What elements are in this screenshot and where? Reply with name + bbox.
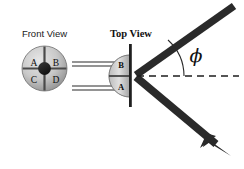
- quadrant-detector-front: A B C D: [22, 46, 67, 91]
- figure-canvas: Front View Top View A B C D: [0, 0, 244, 169]
- front-detector-hub: [38, 62, 51, 75]
- outgoing-beam-arrowhead: [203, 133, 230, 155]
- front-quadrant-label-b: B: [53, 58, 59, 68]
- top-view-label: Top View: [110, 28, 152, 39]
- front-quadrant-label-c: C: [31, 75, 37, 85]
- front-quadrant-label-a: A: [31, 58, 38, 68]
- quadrant-detector-top: B A: [109, 44, 131, 107]
- front-quadrant-label-d: D: [53, 75, 60, 85]
- front-view-label: Front View: [22, 28, 67, 39]
- top-segment-label-b: B: [118, 60, 124, 70]
- top-segment-label-a: A: [118, 82, 125, 92]
- incoming-beam: [136, 6, 234, 75]
- detector-geometry-diagram: Front View Top View A B C D: [0, 0, 244, 169]
- phi-angle-label: ϕ: [190, 44, 203, 66]
- outgoing-beam-shaft: [136, 77, 216, 144]
